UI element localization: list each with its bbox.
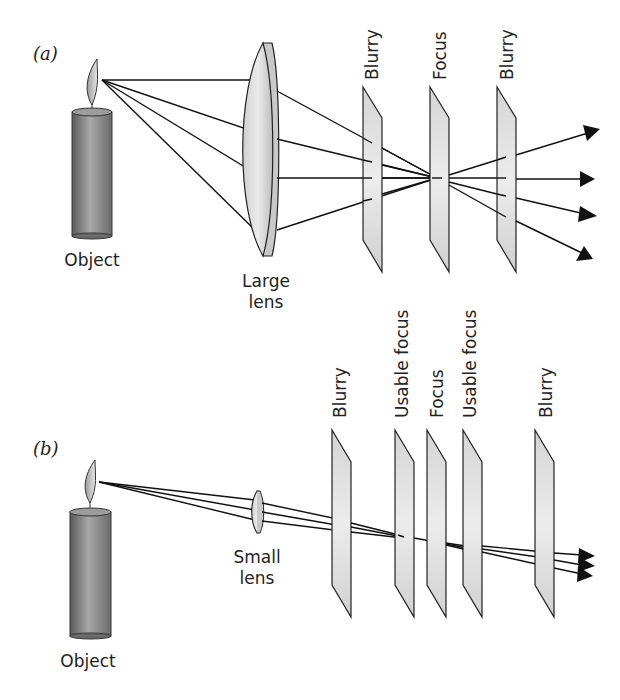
small-lens-icon [252,491,264,533]
depth-of-field-diagram: (a) Object Large lens [0,0,620,700]
plane-label-blurry-a2: Blurry [497,29,517,80]
object-label-b: Object [60,651,116,671]
plane-label-blurry-a1: Blurry [362,29,382,80]
image-plane-focus-a [430,87,449,272]
candle-object-a-icon [72,59,112,239]
converging-rays-b [262,503,342,531]
panel-a: (a) Object Large lens [33,29,600,312]
image-plane-usable-focus-b1 [395,430,414,617]
lens-label-b-line1: Small [233,547,280,567]
lens-label-a-line1: Large [242,271,290,291]
image-plane-blurry-b1 [332,430,351,617]
panel-b: (b) Object Small lens [33,309,595,671]
plane-label-focus-b: Focus [427,369,447,418]
plane-label-blurry-b1: Blurry [330,367,350,418]
incoming-rays-a [102,80,258,233]
image-plane-usable-focus-b2 [463,430,482,617]
arrowheads-b [577,548,595,582]
image-plane-blurry-a2 [497,87,516,272]
plane-label-usable-focus-b1: Usable focus [392,309,412,418]
panel-a-label: (a) [33,43,58,64]
image-plane-focus-b [427,430,446,617]
object-label-a: Object [64,250,120,270]
image-plane-blurry-b2 [535,430,554,617]
plane-label-usable-focus-b2: Usable focus [460,309,480,418]
plane-label-focus-a: Focus [430,31,450,80]
arrowheads-a [576,125,600,261]
image-plane-blurry-a1 [363,87,382,272]
incoming-rays-b [99,482,255,520]
plane-label-blurry-b2: Blurry [536,367,556,418]
lens-label-b-line2: lens [240,568,275,588]
candle-object-b-icon [70,460,111,639]
panel-b-label: (b) [33,438,59,459]
lens-label-a-line2: lens [249,292,284,312]
converging-rays-a [277,91,437,230]
